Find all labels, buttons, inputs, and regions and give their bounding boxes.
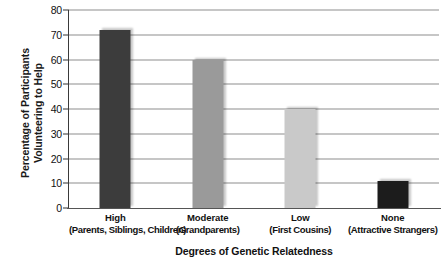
bars-layer	[69, 10, 439, 208]
y-axis-tick-label: 80	[36, 4, 62, 16]
bar[interactable]	[285, 109, 316, 208]
x-axis-line	[67, 208, 441, 209]
y-axis-tick-label: 70	[36, 29, 62, 41]
x-axis-title: Degrees of Genetic Relatedness	[69, 245, 439, 257]
y-axis-tick-labels: 01020304050607080	[36, 10, 62, 208]
bar-slot	[254, 10, 347, 208]
x-axis-category-sublabel: (Parents, Siblings, Children)	[69, 224, 162, 236]
y-axis-tick-label: 40	[36, 103, 62, 115]
x-axis-category-label: Moderate(Grandparents)	[162, 212, 255, 237]
bar-slot	[162, 10, 255, 208]
bar[interactable]	[377, 181, 408, 208]
x-axis-category-name: High	[69, 212, 162, 224]
x-axis-category-sublabel: (Grandparents)	[162, 224, 255, 236]
plot-area	[69, 10, 439, 208]
bar-slot	[69, 10, 162, 208]
y-axis-tick-label: 10	[36, 177, 62, 189]
x-axis-category-label: None(Attractive Strangers)	[347, 212, 440, 237]
x-axis-category-sublabel: (Attractive Strangers)	[347, 224, 440, 236]
y-axis-tick-label: 60	[36, 54, 62, 66]
x-axis-category-sublabel: (First Cousins)	[254, 224, 347, 236]
bar-chart-figure: Percentage of Participants Volunteering …	[0, 0, 443, 257]
y-axis-title-line-1: Percentage of Participants	[19, 48, 32, 178]
bar[interactable]	[192, 60, 223, 209]
x-axis-category-name: Low	[254, 212, 347, 224]
x-axis-category-label: Low(First Cousins)	[254, 212, 347, 237]
bar[interactable]	[100, 30, 131, 208]
y-axis-tick-label: 20	[36, 153, 62, 165]
x-axis-category-labels: High(Parents, Siblings, Children)Moderat…	[69, 212, 439, 242]
y-axis-tick-label: 0	[36, 202, 62, 214]
bar-slot	[347, 10, 440, 208]
x-axis-category-label: High(Parents, Siblings, Children)	[69, 212, 162, 237]
x-axis-category-name: None	[347, 212, 440, 224]
y-axis-tick-label: 30	[36, 128, 62, 140]
y-axis-tick-label: 50	[36, 78, 62, 90]
x-axis-category-name: Moderate	[162, 212, 255, 224]
